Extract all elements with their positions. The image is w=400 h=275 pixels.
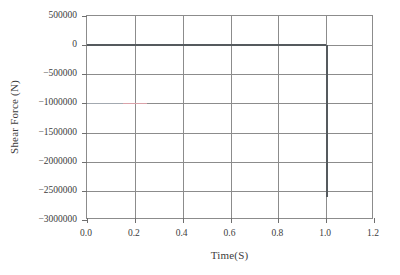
x-tick-label: 0.8 — [257, 228, 297, 238]
x-tick-label: 0.6 — [210, 228, 250, 238]
x-tick-label: 1.0 — [305, 228, 345, 238]
secondary-trace-tail — [87, 103, 123, 104]
secondary-trace-line — [123, 103, 147, 105]
y-tick-label: −1000000 — [0, 97, 77, 107]
plot-area — [86, 15, 373, 219]
tick-mark-x — [231, 218, 232, 223]
tick-mark-x — [374, 218, 375, 223]
x-axis-title: Time(S) — [86, 248, 373, 262]
x-tick-label: 0.0 — [66, 228, 106, 238]
chart-figure: Shear Force (N) 5000000−500000−1000000−1… — [0, 0, 400, 275]
shear-force-baseline — [87, 44, 326, 46]
y-tick-label: −1500000 — [0, 127, 77, 137]
tick-mark-x — [326, 218, 327, 223]
data-series-layer — [87, 16, 372, 218]
y-tick-label: 0 — [0, 39, 77, 49]
y-tick-label: 500000 — [0, 10, 77, 20]
tick-mark-x — [135, 218, 136, 223]
y-tick-label: −2000000 — [0, 156, 77, 166]
x-tick-label: 0.2 — [114, 228, 154, 238]
tick-mark-x — [183, 218, 184, 223]
tick-mark-x — [278, 218, 279, 223]
x-tick-label: 0.4 — [162, 228, 202, 238]
shear-force-spike — [326, 45, 328, 197]
x-tick-label: 1.2 — [353, 228, 393, 238]
y-tick-label: −2500000 — [0, 185, 77, 195]
y-tick-label: −3000000 — [0, 214, 77, 224]
tick-mark-x — [87, 218, 88, 223]
y-tick-label: −500000 — [0, 68, 77, 78]
